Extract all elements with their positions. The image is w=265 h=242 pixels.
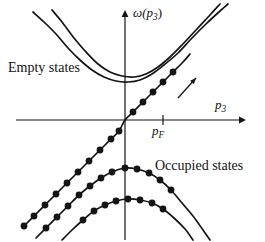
state-dot-linear-branch [116, 128, 123, 135]
empty-states-label: Empty states [8, 60, 80, 76]
state-dot-occupied-band-upper [146, 170, 153, 177]
x-axis-arrowhead [239, 117, 246, 124]
state-dot-linear-branch [150, 89, 157, 96]
state-dot-linear-branch [21, 223, 28, 230]
state-dot-occupied-band-lower [113, 198, 120, 205]
state-dot-linear-branch [108, 136, 115, 143]
occupied-states-label: Occupied states [155, 158, 243, 174]
fermi-momentum-label: pF [152, 123, 164, 140]
dispersion-diagram: ω(p3) p3 pF Empty states Occupied states [0, 0, 265, 242]
state-dot-occupied-band-upper [109, 169, 116, 176]
x-axis-label-sub: 3 [222, 104, 227, 114]
state-dot-linear-branch [31, 213, 38, 220]
state-dot-linear-branch [130, 109, 137, 116]
state-dot-occupied-band-upper [98, 175, 105, 182]
state-dot-linear-branch [160, 79, 167, 86]
y-axis-label: ω(p3) [133, 5, 162, 22]
state-dot-occupied-band-upper [43, 225, 50, 232]
x-axis-label: p3 [215, 97, 226, 114]
state-dot-occupied-band-lower [149, 200, 156, 207]
state-dot-linear-branch [53, 191, 60, 198]
state-dot-occupied-band-lower [91, 208, 98, 215]
state-dot-occupied-band-upper [122, 165, 129, 172]
state-dot-linear-branch [86, 158, 93, 165]
state-dot-linear-branch [140, 99, 147, 106]
state-dot-linear-branch [75, 169, 82, 176]
y-axis-label-close: ) [158, 5, 162, 20]
state-dot-occupied-band-upper [54, 214, 61, 221]
state-dot-occupied-band-upper [76, 192, 83, 199]
state-dot-linear-branch [42, 202, 49, 209]
state-dot-linear-branch [64, 180, 71, 187]
curve-occupied-band-upper [36, 168, 210, 240]
state-dot-occupied-band-lower [102, 202, 109, 209]
plot-canvas [0, 0, 265, 242]
state-dot-linear-branch [170, 69, 177, 76]
fermi-label-sub: F [159, 130, 165, 140]
state-dot-occupied-band-lower [160, 206, 167, 213]
state-dot-occupied-band-upper [87, 183, 94, 190]
state-dot-occupied-band-lower [125, 196, 132, 203]
state-dot-occupied-band-lower [137, 197, 144, 204]
state-dot-linear-branch [97, 147, 104, 154]
state-dot-occupied-band-upper [65, 203, 72, 210]
state-dot-occupied-band-upper [168, 187, 175, 194]
state-dot-occupied-band-upper [157, 177, 164, 184]
y-axis-arrowhead [122, 10, 129, 17]
state-dot-occupied-band-upper [134, 166, 141, 173]
state-dot-occupied-band-lower [80, 217, 87, 224]
y-axis-label-omega: ω( [133, 5, 147, 20]
